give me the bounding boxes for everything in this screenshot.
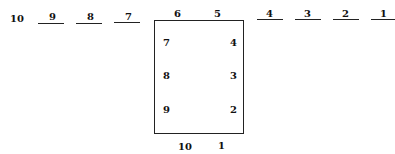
bottom-label: 10 <box>178 142 192 152</box>
blank-line <box>333 19 359 20</box>
top-label: 7 <box>125 12 132 22</box>
blank-line <box>295 19 321 20</box>
box-right-label: 2 <box>230 105 237 115</box>
top-label: 5 <box>214 9 221 19</box>
box-right-label: 4 <box>230 38 237 48</box>
bottom-label: 1 <box>218 141 225 151</box>
blank-line <box>371 19 395 20</box>
top-label: 2 <box>342 9 349 19</box>
box-left-label: 7 <box>163 38 170 48</box>
blank-line <box>114 22 140 23</box>
top-label: 8 <box>87 12 94 22</box>
box-left-label: 8 <box>163 71 170 81</box>
top-label: 9 <box>49 12 56 22</box>
blank-line <box>38 23 64 24</box>
top-label: 4 <box>266 9 273 19</box>
box-left-label: 9 <box>163 105 170 115</box>
blank-line <box>76 23 102 24</box>
top-label: 6 <box>174 9 181 19</box>
top-label: 10 <box>10 14 24 24</box>
top-label: 3 <box>304 9 311 19</box>
box-right-label: 3 <box>230 71 237 81</box>
top-label: 1 <box>380 9 387 19</box>
blank-line <box>257 19 283 20</box>
